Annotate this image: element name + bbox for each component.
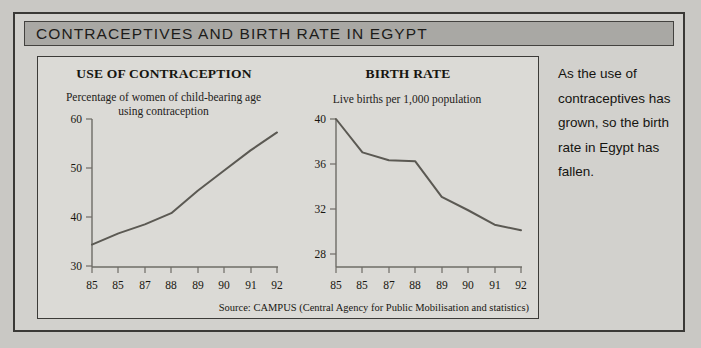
xtick-7: 92 — [515, 279, 527, 291]
xtick-0: 85 — [86, 279, 98, 291]
xtick-5: 90 — [218, 279, 230, 291]
xtick-5: 90 — [462, 279, 474, 291]
xtick-6: 91 — [245, 279, 257, 291]
figure-title: CONTRACEPTIVES AND BIRTH RATE IN EGYPT — [25, 25, 428, 43]
xtick-1: 85 — [356, 279, 368, 291]
ytick-40: 40 — [315, 113, 327, 125]
figure-title-bar: CONTRACEPTIVES AND BIRTH RATE IN EGYPT — [24, 21, 674, 46]
xtick-4: 89 — [436, 279, 448, 291]
plot-left: 60 50 40 30 85 85 87 88 89 — [42, 57, 286, 300]
axes-right: 40 36 32 28 85 85 87 88 89 — [315, 113, 528, 291]
chart-birth-rate: BIRTH RATE Live births per 1,000 populat… — [286, 57, 530, 300]
data-series-contraception — [92, 132, 277, 244]
data-series-birth-rate — [336, 119, 521, 230]
xtick-6: 91 — [489, 279, 501, 291]
xtick-0: 85 — [330, 279, 342, 291]
xtick-7: 92 — [271, 279, 283, 291]
xtick-3: 88 — [409, 279, 421, 291]
xtick-1: 85 — [112, 279, 124, 291]
ytick-50: 50 — [71, 162, 83, 174]
plot-right: 40 36 32 28 85 85 87 88 89 — [286, 57, 530, 300]
ytick-28: 28 — [315, 248, 327, 260]
xtick-2: 87 — [139, 279, 151, 291]
side-caption: As the use of contraceptives has grown, … — [558, 62, 686, 185]
ytick-30: 30 — [71, 260, 83, 272]
xtick-4: 89 — [192, 279, 204, 291]
figure-container: CONTRACEPTIVES AND BIRTH RATE IN EGYPT U… — [13, 12, 685, 332]
ytick-40: 40 — [71, 211, 83, 223]
charts-panel: USE OF CONTRACEPTION Percentage of women… — [37, 56, 539, 319]
axes-left: 60 50 40 30 85 85 87 88 89 — [71, 113, 284, 291]
xtick-2: 87 — [383, 279, 395, 291]
ytick-32: 32 — [315, 203, 327, 215]
chart-use-of-contraception: USE OF CONTRACEPTION Percentage of women… — [42, 57, 286, 300]
ytick-60: 60 — [71, 113, 83, 125]
ytick-36: 36 — [315, 158, 327, 170]
source-note: Source: CAMPUS (Central Agency for Publi… — [38, 302, 538, 313]
xtick-3: 88 — [165, 279, 177, 291]
